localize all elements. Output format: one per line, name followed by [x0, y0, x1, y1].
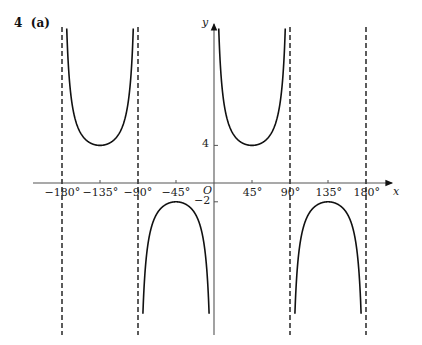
y-tick-label: 4	[202, 137, 209, 150]
curve-branch	[295, 202, 361, 314]
x-tick-label: −180°	[45, 186, 81, 199]
origin-label: O	[203, 184, 212, 197]
x-axis-label: x	[393, 185, 399, 198]
x-tick-label: −90°	[124, 186, 153, 199]
x-tick-label: −45°	[162, 186, 191, 199]
curve-branch	[143, 202, 209, 314]
x-tick-label: 45°	[243, 186, 263, 199]
x-tick-label: −135°	[83, 186, 119, 199]
chart-plot	[0, 0, 422, 345]
curve-branch	[219, 28, 286, 145]
x-tick-label: 135°	[316, 186, 343, 199]
x-tick-label: 90°	[281, 186, 301, 199]
y-axis-label: y	[202, 16, 208, 29]
curve-branch	[67, 28, 134, 145]
x-tick-label: 180°	[354, 186, 381, 199]
